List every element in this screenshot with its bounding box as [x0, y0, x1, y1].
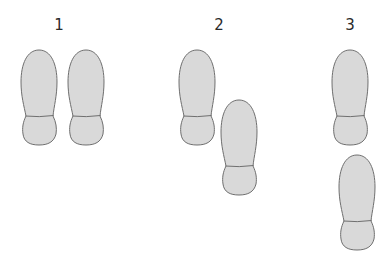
shoe-print-step2-right: [221, 100, 257, 195]
shoe-print-step3-front: [332, 50, 368, 145]
shoe-print-step3-back: [339, 155, 375, 250]
shoe-print-step1-left: [21, 50, 57, 145]
footprints-diagram: [0, 0, 390, 265]
shoe-print-step2-left: [179, 50, 215, 145]
shoe-print-step1-right: [68, 50, 104, 145]
